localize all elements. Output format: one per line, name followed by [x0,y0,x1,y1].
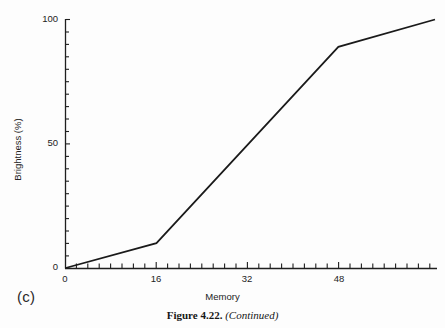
data-series-line [66,20,436,269]
figure-caption-continued: (Continued) [225,309,278,321]
panel-letter: (c) [17,288,35,305]
x-tick-label-48: 48 [325,274,353,284]
y-tick-label-0: 0 [20,262,58,272]
x-tick-label-0: 0 [51,274,79,284]
y-minor-ticks [66,20,71,269]
figure-caption: Figure 4.22. (Continued) [0,309,445,321]
x-tick-label-32: 32 [233,274,261,284]
x-minor-ticks [76,262,429,269]
figure-caption-number: Figure 4.22. [167,309,223,321]
y-axis-title: Brightness (%) [12,105,23,195]
y-tick-label-100: 100 [20,14,58,24]
x-axis-title: Memory [0,291,445,302]
y-tick-label-50: 50 [20,138,58,148]
x-tick-label-16: 16 [142,274,170,284]
figure-container: 100 50 0 0 16 32 48 Brightness (%) Memor… [0,0,445,328]
